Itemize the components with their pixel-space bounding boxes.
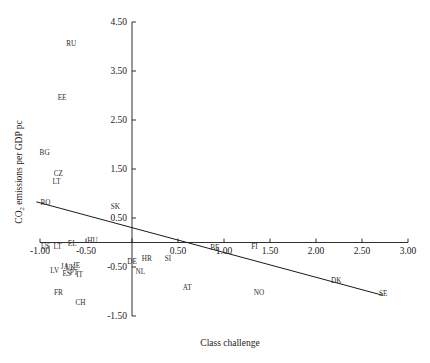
y-tick-label: 3.50 [110, 66, 127, 76]
scatter-plot: -1.00-0.500.501.001.502.002.503.00-1.50-… [0, 0, 430, 363]
data-point-label: FR [54, 289, 63, 297]
y-tick-label: -0.50 [107, 262, 127, 272]
data-point-label: RU [66, 40, 77, 48]
tick-marks [40, 22, 408, 316]
x-tick-label: 2.50 [354, 246, 371, 256]
y-tick-label: 2.50 [110, 115, 127, 125]
data-point-label: DE [127, 258, 137, 266]
data-point-label: FI [251, 243, 258, 251]
data-point-label: HR [142, 255, 152, 263]
y-tick-label: 1.50 [110, 164, 127, 174]
data-point-label: HU [87, 237, 98, 245]
data-point-label: BE [210, 244, 220, 252]
chart-figure: -1.00-0.500.501.001.502.002.503.00-1.50-… [0, 0, 430, 363]
data-point-label: RO [41, 199, 51, 207]
y-axis-title: CO2 emissions per GDP pc [14, 120, 25, 223]
x-tick-label: 1.50 [262, 246, 279, 256]
data-point-label: SI [165, 255, 172, 263]
y-tick-label: -1.50 [107, 311, 127, 321]
data-point-label: AT [183, 284, 192, 292]
data-point-label: IT [76, 271, 83, 279]
tick-labels: -1.00-0.500.501.001.502.002.503.00-1.50-… [30, 17, 416, 321]
data-point-label: EL [68, 240, 77, 248]
data-point-labels: RUEEBGCZLTROSKUSLTELHUDEHRSIBEFILVJAUKIE… [40, 40, 388, 307]
data-point-label: US [41, 243, 50, 251]
x-tick-label: 0.50 [170, 246, 187, 256]
data-point-label: SE [379, 290, 388, 298]
x-tick-label: -0.50 [76, 246, 96, 256]
data-point-label: EE [58, 94, 67, 102]
data-point-label: NO [254, 289, 264, 297]
data-point-label: CZ [54, 170, 63, 178]
data-point-label: LT [53, 243, 62, 251]
x-axis-title: Class challenge [200, 338, 259, 348]
y-tick-label: 4.50 [110, 17, 127, 27]
data-point-label: LV [50, 267, 60, 275]
axis-titles: Class challengeCO2 emissions per GDP pc [14, 120, 260, 348]
data-point-label: DK [331, 277, 342, 285]
data-point-label: SK [111, 203, 121, 211]
data-point-label: CH [75, 299, 85, 307]
data-point-label: LT [52, 178, 61, 186]
x-tick-label: 2.00 [308, 246, 325, 256]
axes [40, 22, 408, 316]
data-point-label: BG [40, 149, 50, 157]
x-tick-label: 3.00 [400, 246, 417, 256]
y-tick-label: 0.50 [110, 213, 127, 223]
data-point-label: NL [135, 268, 145, 276]
